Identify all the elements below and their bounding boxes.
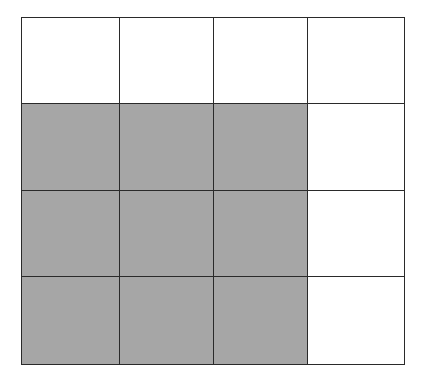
shaded-cell-r2-c2 [213,190,308,277]
shaded-cell-r2-c1 [119,190,214,277]
empty-cell-r1-c3 [307,103,405,191]
grid-diagram [21,17,404,364]
empty-cell-r0-c0 [21,17,120,104]
shaded-cell-r2-c0 [21,190,120,277]
shaded-cell-r3-c1 [119,276,214,365]
shaded-cell-r3-c0 [21,276,120,365]
empty-cell-r2-c3 [307,190,405,277]
shaded-cell-r1-c0 [21,103,120,191]
shaded-cell-r1-c2 [213,103,308,191]
empty-cell-r0-c2 [213,17,308,104]
shaded-cell-r1-c1 [119,103,214,191]
empty-cell-r0-c3 [307,17,405,104]
shaded-cell-r3-c2 [213,276,308,365]
empty-cell-r0-c1 [119,17,214,104]
empty-cell-r3-c3 [307,276,405,365]
